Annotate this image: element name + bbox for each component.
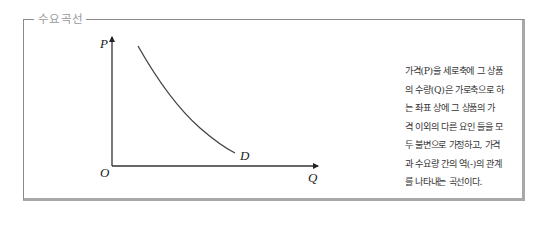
description-line: 를 나타내는 곡선이다. [405, 173, 509, 192]
demand-curve [138, 46, 235, 153]
description-line: 는 좌표 상에 그 상품의 가 [405, 99, 509, 118]
description-line: 격 이외의 다른 요인 들을 모 [405, 118, 509, 137]
description-line: 의 수량(Q)은 가로축으로 하 [405, 81, 509, 100]
origin-label: O [100, 165, 110, 180]
x-axis-label: Q [308, 170, 318, 185]
description-line: 두 불변으로 가정하고, 가격 [405, 136, 509, 155]
description-line: 과 수요량 간의 역(-)의 관계 [405, 155, 509, 174]
description-text: 가격(P)을 세로축에 그 상품 의 수량(Q)은 가로축으로 하 는 좌표 상… [405, 62, 509, 192]
description-line: 가격(P)을 세로축에 그 상품 [405, 62, 509, 81]
y-axis-label: P [99, 36, 108, 51]
curve-label: D [239, 148, 250, 163]
